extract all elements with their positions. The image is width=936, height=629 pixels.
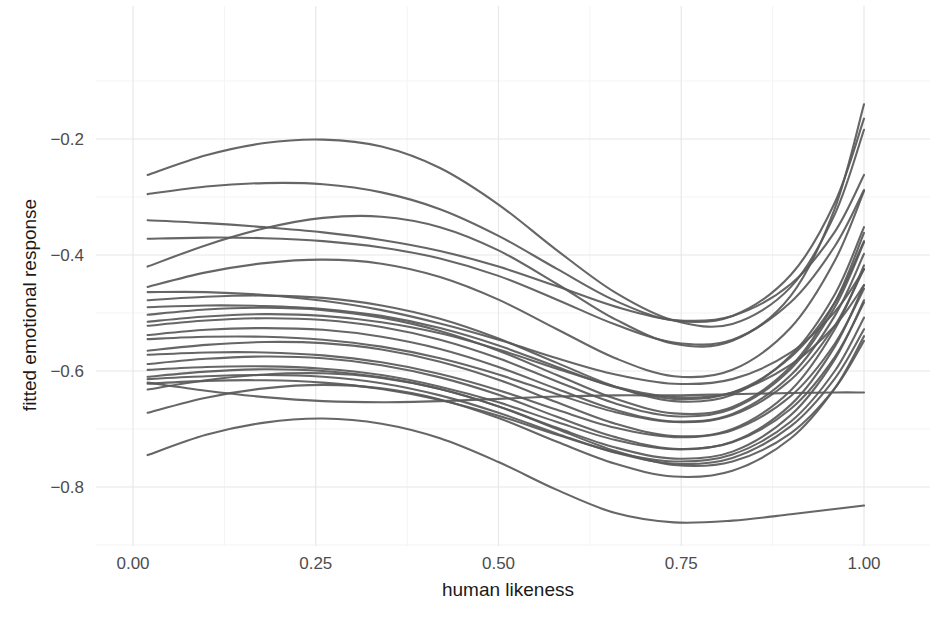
x-tick-label: 0.00 (116, 554, 149, 573)
chart-figure: 0.000.250.500.751.00 −0.2−0.4−0.6−0.8 hu… (0, 0, 936, 629)
x-tick-label: 1.00 (847, 554, 880, 573)
y-tick-label: −0.8 (50, 478, 84, 497)
y-tick-label: −0.6 (50, 362, 84, 381)
x-tick-label: 0.75 (665, 554, 698, 573)
y-axis-title: fitted emotional response (19, 199, 40, 411)
x-axis-title: human likeness (442, 579, 574, 600)
y-tick-label: −0.2 (50, 130, 84, 149)
x-tick-label: 0.50 (482, 554, 515, 573)
y-tick-label: −0.4 (50, 246, 84, 265)
x-tick-label: 0.25 (299, 554, 332, 573)
spaghetti-line-chart: 0.000.250.500.751.00 −0.2−0.4−0.6−0.8 hu… (0, 0, 936, 629)
